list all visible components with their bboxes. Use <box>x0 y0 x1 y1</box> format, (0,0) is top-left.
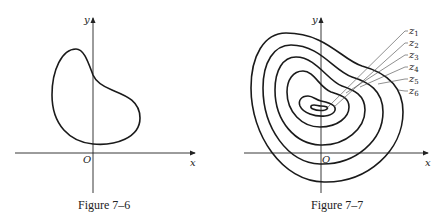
closed-curve <box>52 49 140 144</box>
contour-level-6 <box>311 105 328 111</box>
level-leader-lines <box>326 31 408 109</box>
x-axis-label: x <box>190 157 196 168</box>
level-labels: z1 z2 z3 z4 z5 z6 <box>408 25 419 98</box>
figure-caption: Figure 7–7 <box>311 198 363 212</box>
origin-label: O <box>83 154 91 165</box>
figure-7-6: y x O Figure 7–6 <box>15 14 196 212</box>
level-label-z6: z6 <box>408 85 419 98</box>
figures-canvas: y x O Figure 7–6 z1 z2 <box>0 0 443 224</box>
y-axis-label: y <box>83 14 90 25</box>
y-axis-label: y <box>311 14 318 25</box>
origin-label: O <box>322 154 330 165</box>
contour-level-4 <box>287 71 349 127</box>
x-axis-label: x <box>425 157 431 168</box>
figure-7-7: z1 z2 z3 z4 z5 z6 y x O Figure 7–7 <box>244 14 431 212</box>
figure-caption: Figure 7–6 <box>78 198 130 212</box>
